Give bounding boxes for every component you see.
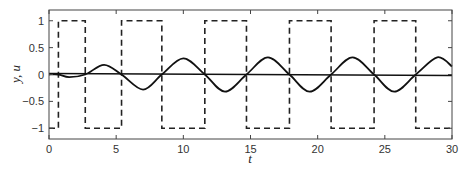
y-tick-label: 1	[38, 15, 44, 27]
x-tick-label: 25	[379, 143, 391, 155]
y-tick-label: 0.5	[29, 42, 44, 54]
x-tick-label: 20	[312, 143, 324, 155]
x-tick-label: 30	[446, 143, 458, 155]
y-axis-label: y, u	[8, 64, 23, 85]
x-tick-label: 0	[46, 143, 52, 155]
plot-area	[49, 21, 452, 129]
x-tick-label: 10	[177, 143, 189, 155]
x-axis-label: t	[248, 151, 252, 166]
series-reference-line	[49, 73, 452, 75]
x-axis-ticks: 051015202530	[46, 10, 458, 155]
y-tick-label: −0.5	[22, 95, 44, 107]
x-tick-label: 5	[113, 143, 119, 155]
y-tick-label: −1	[31, 122, 44, 134]
y-tick-label: 0	[38, 69, 44, 81]
chart: 051015202530 10.50−0.5−1 t y, u	[0, 0, 472, 170]
